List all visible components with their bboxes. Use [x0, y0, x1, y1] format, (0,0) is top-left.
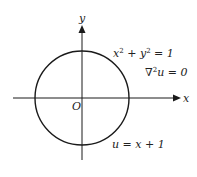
boundary-condition: u = x + 1: [112, 139, 165, 150]
x-axis-arrow-icon: [173, 95, 181, 102]
diagram-canvas: [0, 0, 197, 177]
y-axis-arrow-icon: [79, 25, 86, 33]
circle-equation: x2 + y2 = 1: [113, 48, 174, 59]
y-axis-label: y: [79, 13, 85, 24]
x-axis-label: x: [183, 93, 189, 104]
laplace-equation: ∇2u = 0: [145, 67, 187, 78]
origin-label: O: [72, 101, 81, 112]
diagram: y x O x2 + y2 = 1 ∇2u = 0 u = x + 1: [0, 0, 197, 177]
